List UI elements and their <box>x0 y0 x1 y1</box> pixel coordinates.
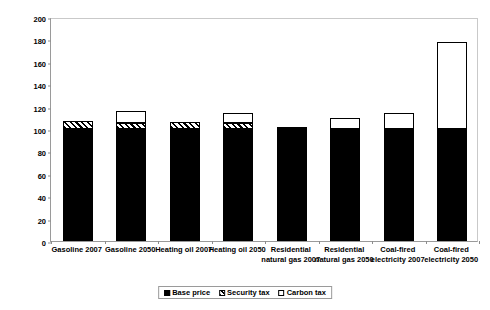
bars-layer <box>51 19 477 241</box>
x-tick-mark <box>51 241 52 244</box>
bar-segment-security-tax[interactable] <box>116 123 146 129</box>
bar-segment-security-tax[interactable] <box>223 123 253 129</box>
y-tick-label: 80 <box>2 149 51 158</box>
x-axis-labels: Gasoline 2007Gasoline 2050Heating oil 20… <box>50 245 478 291</box>
bar-segment-base-price[interactable] <box>116 129 146 241</box>
bar-group[interactable] <box>437 17 467 241</box>
hatched-swatch <box>219 290 225 296</box>
x-tick-mark <box>479 241 480 244</box>
x-tick-mark <box>426 241 427 244</box>
bar-segment-base-price[interactable] <box>437 129 467 241</box>
y-tick-label: 180 <box>2 37 51 46</box>
x-tick-mark <box>105 241 106 244</box>
y-tick-label: 140 <box>2 82 51 91</box>
y-tick-label: 100 <box>2 127 51 136</box>
bar-segment-carbon-tax[interactable] <box>384 113 414 129</box>
bar-segment-security-tax[interactable] <box>170 122 200 129</box>
bar-group[interactable] <box>277 17 307 241</box>
x-axis-category-label: Gasoline 2050 <box>101 245 161 255</box>
bar-group[interactable] <box>170 17 200 241</box>
stacked-bar-chart: Price Index (2007 Price = 100) 020406080… <box>0 0 490 310</box>
x-axis-category-label: Residential natural gas 2007 <box>261 245 321 265</box>
x-tick-mark <box>212 241 213 244</box>
bar-segment-security-tax[interactable] <box>277 127 307 129</box>
legend-item-label: Security tax <box>227 288 270 297</box>
bar-segment-base-price[interactable] <box>277 129 307 241</box>
x-axis-category-label: Gasoline 2007 <box>47 245 107 255</box>
x-axis-category-label: Residential natural gas 2050 <box>315 245 375 265</box>
bar-segment-base-price[interactable] <box>170 129 200 241</box>
y-tick-label: 20 <box>2 216 51 225</box>
bar-group[interactable] <box>116 17 146 241</box>
solid-black-swatch <box>164 290 170 296</box>
plot-area: 020406080100120140160180200 <box>50 18 478 242</box>
y-tick-label: 160 <box>2 59 51 68</box>
bar-group[interactable] <box>384 17 414 241</box>
x-tick-mark <box>158 241 159 244</box>
bar-segment-carbon-tax[interactable] <box>437 42 467 129</box>
y-tick-label: 200 <box>2 15 51 24</box>
legend-item[interactable]: Carbon tax <box>279 288 326 297</box>
legend-item[interactable]: Security tax <box>219 288 270 297</box>
bar-segment-base-price[interactable] <box>384 129 414 241</box>
y-tick-label: 120 <box>2 104 51 113</box>
bar-segment-base-price[interactable] <box>63 129 93 241</box>
bar-group[interactable] <box>223 17 253 241</box>
bar-segment-base-price[interactable] <box>223 129 253 241</box>
bar-segment-security-tax[interactable] <box>63 121 93 129</box>
bar-segment-carbon-tax[interactable] <box>330 118 360 129</box>
x-axis-category-label: Coal-fired electricity 2007 <box>368 245 428 265</box>
x-tick-mark <box>265 241 266 244</box>
x-axis-category-label: Coal-fired electricity 2050 <box>422 245 482 265</box>
legend-item[interactable]: Base price <box>164 288 210 297</box>
x-tick-mark <box>372 241 373 244</box>
bar-segment-carbon-tax[interactable] <box>223 113 253 123</box>
legend-item-label: Base price <box>172 288 210 297</box>
bar-group[interactable] <box>330 17 360 241</box>
x-axis-category-label: Heating oil 2050 <box>208 245 268 255</box>
white-swatch <box>279 290 285 296</box>
x-tick-mark <box>319 241 320 244</box>
chart-legend: Base priceSecurity taxCarbon tax <box>158 286 332 299</box>
bar-group[interactable] <box>63 17 93 241</box>
y-tick-label: 40 <box>2 194 51 203</box>
bar-segment-carbon-tax[interactable] <box>116 111 146 123</box>
y-tick-label: 0 <box>2 239 51 248</box>
y-tick-label: 60 <box>2 171 51 180</box>
x-axis-category-label: Heating oil 2007 <box>154 245 214 255</box>
legend-item-label: Carbon tax <box>287 288 326 297</box>
bar-segment-base-price[interactable] <box>330 129 360 241</box>
